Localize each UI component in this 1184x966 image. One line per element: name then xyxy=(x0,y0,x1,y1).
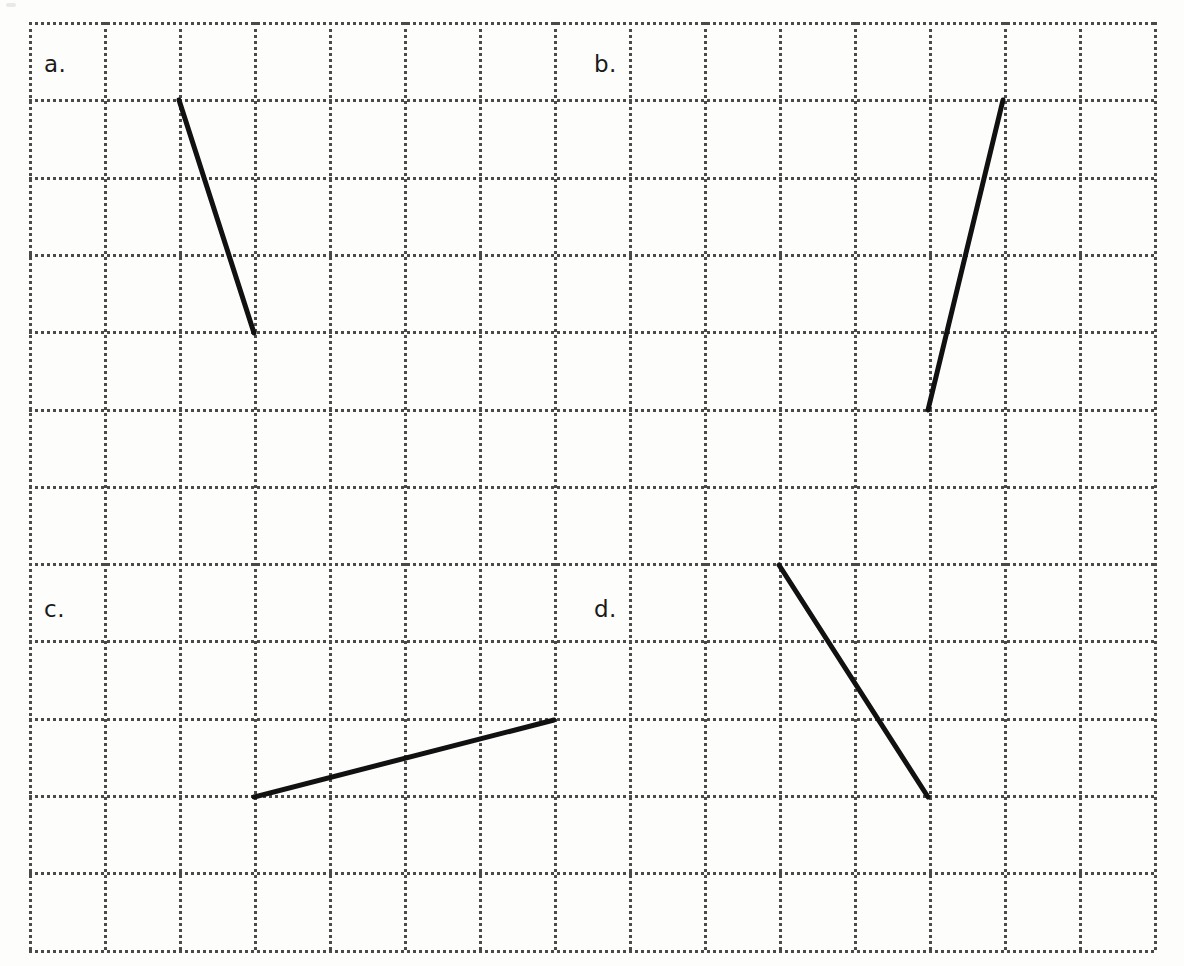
segments-layer xyxy=(0,0,1184,966)
problem-label-a: a. xyxy=(44,53,66,76)
problem-label-c: c. xyxy=(44,598,65,621)
worksheet-page: a. b. c. d. xyxy=(0,0,1184,966)
line-segment-b xyxy=(928,100,1003,410)
line-segment-d xyxy=(779,565,928,797)
line-segment-c xyxy=(254,720,554,797)
problem-label-b: b. xyxy=(594,53,617,76)
line-segment-a xyxy=(179,100,254,333)
problem-label-d: d. xyxy=(594,598,617,621)
